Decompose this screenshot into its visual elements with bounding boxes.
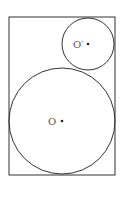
label-o: O — [48, 116, 56, 127]
center-dot-o — [61, 120, 64, 123]
label-o-prime: O′ — [73, 39, 84, 50]
center-dot-o-prime — [87, 43, 90, 46]
geometry-diagram: O O′ — [0, 0, 123, 201]
